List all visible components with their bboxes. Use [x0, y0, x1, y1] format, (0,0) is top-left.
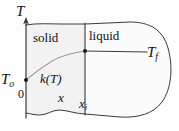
t-axis-label: T	[16, 4, 24, 19]
initial-temperature-subscript: o	[9, 78, 14, 89]
solid-region-label: solid	[33, 31, 58, 44]
figure-container: T To 0 solid liquid k(T) x xi Tf	[0, 0, 179, 131]
fusion-temperature-label: Tf	[147, 45, 158, 62]
interface-point-marker	[83, 49, 87, 53]
origin-label: 0	[18, 88, 24, 100]
position-label: x	[58, 91, 64, 104]
initial-temperature-label: To	[1, 72, 14, 89]
interface-position-label: xi	[79, 97, 87, 112]
fusion-temperature-subscript: f	[155, 51, 158, 62]
conductivity-label: k(T)	[40, 72, 62, 85]
initial-temperature-marker	[24, 78, 28, 82]
interface-position-subscript: i	[85, 102, 87, 112]
diagram-canvas	[0, 0, 179, 131]
liquid-region-label: liquid	[89, 29, 119, 42]
